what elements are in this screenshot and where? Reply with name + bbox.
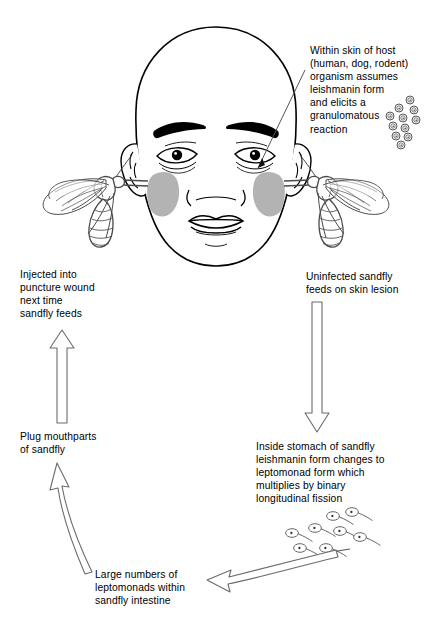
arrow-up-to-injection [50,330,74,423]
arrow-curved-to-mouthparts [50,463,92,574]
caption-within-skin-of-host: Within skin of host (human, dog, rodent)… [310,44,432,136]
caption-injected-into-wound: Injected into puncture wound next time s… [20,268,130,320]
head-figure [121,27,311,266]
arrow-down-to-stomach [305,302,329,432]
caption-uninfected-sandfly: Uninfected sandfly feeds on skin lesion [306,270,432,296]
caption-large-numbers: Large numbers of leptomonads within sand… [95,568,215,607]
caption-inside-stomach: Inside stomach of sandfly leishmanin for… [256,440,426,505]
diagram-canvas: Within skin of host (human, dog, rodent)… [0,0,433,627]
caption-plug-mouthparts: Plug mouthparts of sandfly [20,430,130,456]
arrow-curved-to-intestine [207,550,338,592]
